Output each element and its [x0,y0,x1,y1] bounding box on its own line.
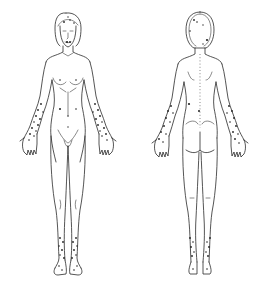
back-head-outline [186,12,214,48]
back-right-hand [152,136,169,157]
front-right-arm-outer [24,62,46,138]
back-neck-shoulders [178,48,222,64]
front-right-leg-inner [64,146,68,260]
front-hair-outline [55,13,81,46]
back-left-leg-outer [209,138,217,262]
body-diagram [0,0,266,288]
front-right-foot [54,260,66,275]
front-right-arm-inner [37,80,52,134]
front-lesion-markers [28,16,108,271]
breasts [53,78,83,85]
back-torso-left-side [214,82,218,138]
groin-lines [58,130,78,143]
back-view-figure [152,12,248,274]
front-left-arm-inner [84,80,99,134]
abdomen-lines [60,88,76,116]
back-hair-inner [189,14,211,46]
back-right-arm-inner [169,82,184,136]
back-torso-right-side [183,82,187,138]
front-left-foot [70,260,82,275]
front-left-arm-outer [90,62,112,138]
buttocks [186,132,214,153]
front-hairline [58,19,78,26]
front-left-leg-inner [68,146,72,260]
front-right-hand [20,134,37,155]
front-torso-right-side [51,80,56,162]
front-torso-left-side [80,80,85,162]
nose [67,33,68,39]
front-left-hand [99,134,116,155]
knees [60,200,76,209]
back-right-arm-outer [156,64,178,140]
back-right-heel [189,262,197,274]
back-left-arm-inner [216,82,231,136]
back-right-leg-outer [183,138,191,262]
front-neck-shoulders [46,46,90,62]
clavicles [63,53,73,56]
back-right-leg-inner [196,152,199,262]
back-left-heel [203,262,211,274]
back-left-hand [231,136,248,157]
back-left-arm-outer [222,64,244,140]
back-lesion-markers [158,19,240,270]
back-left-leg-inner [201,152,204,262]
navel [67,115,68,116]
front-view-figure [20,13,116,275]
